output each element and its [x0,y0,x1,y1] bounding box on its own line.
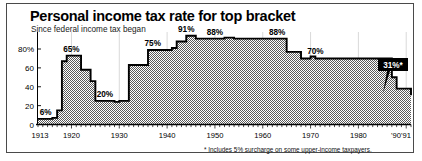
svg-text:1913: 1913 [32,131,49,140]
svg-text:60: 60 [25,64,34,73]
svg-text:'90'91: '90'91 [391,131,411,140]
svg-text:91%: 91% [178,25,195,34]
svg-text:1930: 1930 [111,131,128,140]
svg-text:75%: 75% [145,39,162,48]
chart-footnote: * Includes 5% surcharge on some upper-in… [204,146,372,153]
svg-text:20: 20 [25,102,34,111]
svg-text:88%: 88% [269,28,286,37]
x-tick-labels: 19131920193019401950196019701980'90'91 [32,131,411,140]
area-series-group [38,36,411,125]
svg-text:40: 40 [25,83,34,92]
svg-text:6%: 6% [40,108,53,117]
svg-text:1980: 1980 [350,131,367,140]
svg-text:31%*: 31%* [383,61,403,70]
chart-figure: Personal income tax rate for top bracket… [0,0,422,161]
svg-text:1960: 1960 [254,131,271,140]
svg-text:1940: 1940 [159,131,176,140]
svg-text:1920: 1920 [63,131,80,140]
svg-text:65%: 65% [63,45,80,54]
svg-text:88%: 88% [207,28,224,37]
svg-text:0: 0 [30,121,35,130]
svg-text:1970: 1970 [302,131,319,140]
svg-text:20%: 20% [97,90,114,99]
svg-text:70%: 70% [307,47,324,56]
svg-text:1950: 1950 [206,131,223,140]
svg-text:80%: 80% [18,45,34,54]
tax-rate-area-chart: 80%6040200 19131920193019401950196019701… [0,0,422,161]
